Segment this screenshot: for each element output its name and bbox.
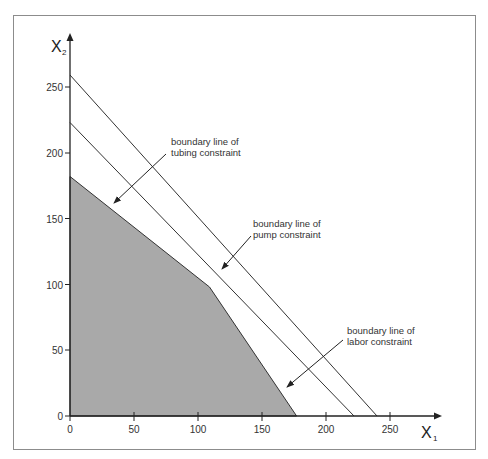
- y-tick-label: 250: [46, 82, 63, 93]
- labor-annotation-line2: labor constraint: [347, 336, 412, 347]
- chart: 0 50 100 150 200 250 0 50 100 150 200 25…: [0, 0, 488, 459]
- y-axis-arrow-icon: [67, 33, 74, 41]
- pump-annotation-arrow-icon: [222, 236, 251, 269]
- tubing-annotation-line2: tubing constraint: [171, 147, 241, 158]
- x-tick-label: 50: [128, 424, 140, 435]
- labor-annotation-line1: boundary line of: [347, 325, 415, 336]
- y-axis-title-subscript: 2: [62, 48, 67, 57]
- x-tick-label: 100: [190, 424, 207, 435]
- tubing-annotation-line1: boundary line of: [171, 136, 239, 147]
- x-tick-label: 0: [67, 424, 73, 435]
- pump-annotation-line2: pump constraint: [253, 229, 321, 240]
- y-tick-label: 50: [52, 345, 64, 356]
- feasible-region: [70, 177, 297, 417]
- tubing-annotation-arrow-icon: [114, 154, 166, 203]
- x-axis-arrow-icon: [434, 413, 442, 420]
- y-tick-label: 0: [57, 411, 63, 422]
- y-tick-label: 100: [46, 280, 63, 291]
- y-ticks: [65, 87, 70, 416]
- pump-annotation-line1: boundary line of: [253, 218, 321, 229]
- y-tick-label: 150: [46, 214, 63, 225]
- x-tick-label: 250: [382, 424, 399, 435]
- x-axis-title: X: [421, 424, 432, 441]
- x-tick-label: 150: [254, 424, 271, 435]
- x-axis-title-subscript: 1: [433, 434, 438, 443]
- x-tick-label: 200: [318, 424, 335, 435]
- y-axis-title: X: [51, 38, 62, 55]
- y-tick-label: 200: [46, 148, 63, 159]
